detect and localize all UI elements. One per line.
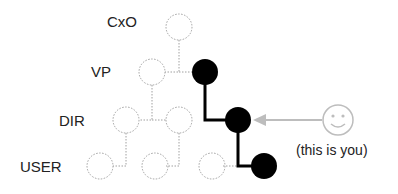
node-vp-peer [139,59,165,85]
level-label-dir: DIR [59,112,85,129]
node-user-2 [142,153,168,179]
dotted-connectors [113,40,251,166]
node-dir-1 [113,107,139,133]
level-label-vp: VP [91,63,111,80]
arrow-left-icon [253,114,322,126]
node-user-1 [87,153,113,179]
level-label-user: USER [20,158,62,175]
level-label-cxo: CxO [107,13,137,30]
node-dir-you [225,107,251,133]
smiley-face-icon [323,105,353,135]
node-user-highlighted [251,153,277,179]
you-annotation: (this is you) [296,142,368,158]
node-cxo [166,14,192,40]
node-vp-highlighted [192,59,218,85]
org-hierarchy-diagram: CxO VP DIR USER (this is you) [0,0,398,194]
node-user-3 [199,153,225,179]
node-dir-2 [166,107,192,133]
